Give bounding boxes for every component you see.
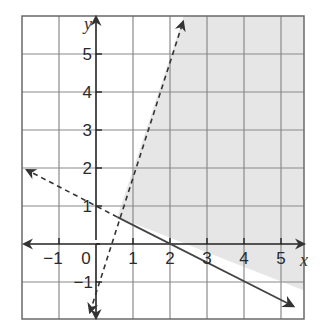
x-axis-label: x [299, 250, 308, 270]
x-tick-label: 2 [165, 249, 174, 268]
y-tick-label: 5 [83, 45, 92, 64]
y-tick-label: 1 [83, 197, 92, 216]
inequality-graph: −1 0 1 2 3 4 5 5 4 3 2 1 −1 y x [0, 0, 329, 329]
y-tick-label: 3 [83, 121, 92, 140]
boundary-line-shallow-dashed [27, 170, 117, 217]
y-tick-label: 2 [83, 159, 92, 178]
y-tick-label: 4 [83, 83, 92, 102]
x-tick-label: 0 [81, 249, 90, 268]
y-axis-label: y [82, 14, 92, 34]
y-tick-label: −1 [74, 273, 93, 292]
x-tick-label: 4 [239, 249, 248, 268]
x-tick-label: −1 [43, 249, 62, 268]
x-tick-label: 5 [276, 249, 285, 268]
x-tick-label: 1 [128, 249, 137, 268]
x-tick-label: 3 [202, 249, 211, 268]
